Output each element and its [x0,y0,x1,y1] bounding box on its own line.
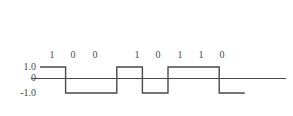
bit-label-7: 1 [194,50,208,60]
bit-label-3: 0 [88,50,102,60]
nrz-waveform-figure: 1.0 0 -1.0 1 0 0 1 0 1 1 0 [0,0,293,116]
signal-waveform-path [40,67,245,93]
axis-label-low: -1.0 [6,88,36,98]
waveform-plot [0,0,293,116]
axis-label-zero: 0 [6,73,36,83]
bit-label-5: 0 [151,50,165,60]
bit-label-4: 1 [130,50,144,60]
bit-label-2: 0 [66,50,80,60]
bit-label-1: 1 [45,50,59,60]
axis-label-high: 1.0 [6,62,36,72]
bit-label-8: 0 [215,50,229,60]
bit-label-6: 1 [173,50,187,60]
